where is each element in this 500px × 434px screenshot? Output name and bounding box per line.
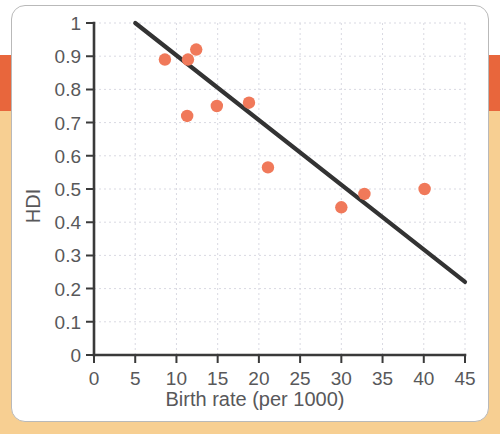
x-tick-label: 20 [248, 368, 269, 389]
scatter-plot: 051015202530354045 00.10.20.30.40.50.60.… [12, 6, 489, 422]
y-tick-label: 0.4 [55, 212, 82, 233]
y-tick-label: 0.8 [55, 79, 81, 100]
x-axis-title: Birth rate (per 1000) [166, 388, 345, 410]
x-tick-label: 15 [207, 368, 228, 389]
x-tick-label: 30 [331, 368, 352, 389]
grid-lines [94, 23, 465, 355]
page-backdrop: 051015202530354045 00.10.20.30.40.50.60.… [0, 0, 500, 434]
y-tick-label: 1 [70, 13, 81, 34]
x-tick-label: 5 [130, 368, 141, 389]
y-tick-label: 0.9 [55, 46, 81, 67]
y-tick-label: 0.6 [55, 146, 81, 167]
y-tick-label: 0.3 [55, 245, 81, 266]
y-tick-label: 0.5 [55, 179, 81, 200]
data-point [418, 183, 430, 195]
x-tick-label: 45 [454, 368, 475, 389]
y-tick-label: 0 [70, 345, 81, 366]
data-point [190, 43, 202, 55]
y-tick-label: 0.7 [55, 113, 81, 134]
data-point [243, 96, 255, 108]
data-point [211, 100, 223, 112]
data-point [262, 161, 274, 173]
data-point [182, 53, 194, 65]
data-point [335, 201, 347, 213]
x-tick-label: 35 [372, 368, 393, 389]
data-point [159, 53, 171, 65]
data-points [159, 43, 431, 213]
x-tick-labels: 051015202530354045 [89, 368, 476, 389]
x-tick-label: 10 [166, 368, 187, 389]
chart-card: 051015202530354045 00.10.20.30.40.50.60.… [11, 5, 489, 422]
x-tick-label: 25 [290, 368, 311, 389]
y-tick-label: 0.1 [55, 312, 81, 333]
y-axis-title: HDI [22, 189, 44, 223]
data-point [358, 188, 370, 200]
data-point [181, 110, 193, 122]
tick-marks [86, 23, 465, 363]
y-tick-labels: 00.10.20.30.40.50.60.70.80.91 [55, 13, 82, 366]
y-tick-label: 0.2 [55, 279, 81, 300]
x-tick-label: 40 [413, 368, 434, 389]
x-tick-label: 0 [89, 368, 100, 389]
